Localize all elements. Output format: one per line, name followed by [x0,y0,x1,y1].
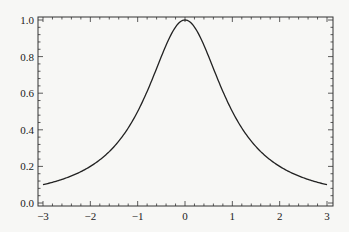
x-tick-labels: −3−2−10123 [37,210,330,222]
x-tick-label: 3 [324,210,330,222]
y-tick-label: 0.6 [20,87,34,99]
y-tick-label: 0.2 [20,160,34,172]
x-tick-label: 0 [182,210,188,222]
plot-frame [38,17,333,206]
y-tick-label: 0.0 [20,197,34,209]
x-tick-label: 1 [230,210,236,222]
line-chart: −3−2−10123 0.00.20.40.60.81.0 [0,0,349,232]
x-tick-label: −1 [132,210,144,222]
axis-ticks [38,17,333,206]
y-tick-labels: 0.00.20.40.60.81.0 [20,14,34,209]
y-tick-label: 1.0 [20,14,34,26]
x-tick-label: 2 [277,210,283,222]
x-tick-label: −3 [37,210,49,222]
y-tick-label: 0.4 [20,124,34,136]
y-tick-label: 0.8 [20,51,34,63]
x-tick-label: −2 [84,210,96,222]
data-curve [43,20,327,185]
